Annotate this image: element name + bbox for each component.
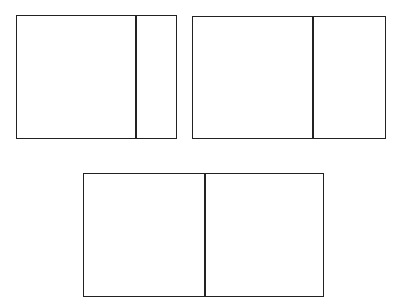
rectangle-bottom-center: [83, 173, 324, 297]
rectangle-top-left: [16, 15, 177, 139]
rectangle-top-right: [192, 16, 386, 139]
rectangle-divider-line: [312, 17, 314, 138]
rectangle-divider-line: [204, 174, 206, 296]
rectangle-divider-line: [135, 16, 137, 138]
